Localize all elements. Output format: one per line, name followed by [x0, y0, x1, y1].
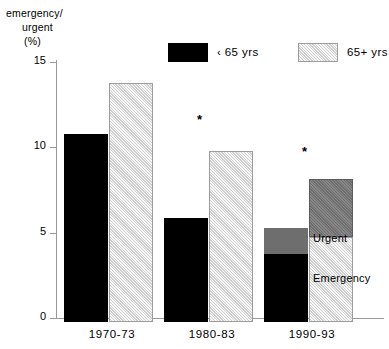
y-tick-15: 15: [0, 62, 56, 63]
y-axis-title-line-3: (%): [6, 34, 126, 48]
x-axis-label-1980-83: 1980-83: [162, 328, 262, 340]
bar-1970-73-under-65[interactable]: [64, 134, 108, 322]
x-axis-label-1990-93: 1990-93: [262, 328, 362, 340]
bar-1980-83-65-plus[interactable]: [209, 151, 253, 322]
legend-label-65-plus: 65+ yrs: [347, 46, 388, 58]
bar-segment-emergency: [64, 134, 108, 322]
stack-label-emergency: Emergency: [313, 272, 370, 284]
bar-segment-emergency: [109, 83, 153, 322]
bar-1990-93-65-plus[interactable]: [309, 179, 353, 322]
y-tick-label-5: 5: [40, 225, 46, 237]
y-axis-title-line-2: urgent: [6, 20, 126, 34]
y-axis-title: emergency/ urgent (%): [6, 6, 126, 48]
y-tick-10: 10: [0, 147, 56, 148]
y-tick-0: 0: [0, 318, 56, 319]
x-axis-label-1970-73: 1970-73: [62, 328, 162, 340]
chart-root: emergency/ urgent (%) ‹ 65 yrs 65+ yrs 0…: [0, 0, 389, 349]
bar-segment-urgent: [264, 228, 308, 254]
legend-label-under-65: ‹ 65 yrs: [217, 46, 259, 58]
significance-marker-1980-83: *: [197, 113, 202, 126]
y-axis-title-line-1: emergency/: [6, 6, 126, 20]
bar-segment-urgent: [309, 179, 353, 237]
bar-segment-emergency: [209, 151, 253, 322]
bar-segment-emergency: [264, 254, 308, 322]
significance-marker-1990-93: *: [302, 145, 307, 158]
bar-1970-73-65-plus[interactable]: [109, 83, 153, 322]
bar-segment-emergency: [164, 218, 208, 322]
y-tick-label-0: 0: [40, 310, 46, 322]
y-tick-5: 5: [0, 233, 56, 234]
bar-1990-93-under-65[interactable]: [264, 228, 308, 322]
y-tick-label-10: 10: [34, 139, 46, 151]
y-tick-label-15: 15: [34, 54, 46, 66]
stack-label-urgent: Urgent: [313, 232, 347, 244]
bar-1980-83-under-65[interactable]: [164, 218, 208, 322]
